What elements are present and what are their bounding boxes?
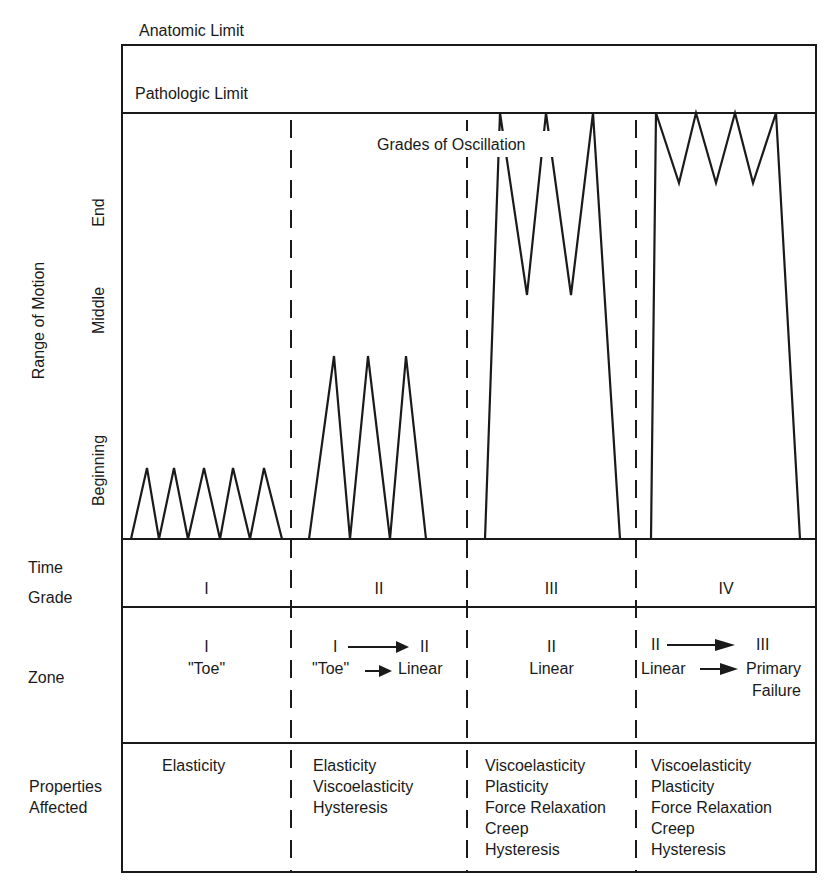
property-item: Plasticity	[651, 776, 772, 797]
row-label-zone: Zone	[28, 667, 64, 688]
row-label-time: Time	[28, 557, 63, 578]
grade-2-waveform	[309, 356, 426, 539]
property-item: Hysteresis	[651, 839, 772, 860]
property-item: Elasticity	[313, 755, 413, 776]
row-label-affected: Affected	[29, 797, 87, 818]
property-item: Creep	[651, 818, 772, 839]
y-level-end: End	[88, 183, 109, 243]
zone-iv-to-label: Primary	[746, 658, 801, 679]
pathologic-limit-label: Pathologic Limit	[135, 83, 248, 104]
grade-1-waveform	[131, 468, 282, 539]
row-label-properties: Properties	[29, 776, 102, 797]
properties-grade-ii: Elasticity Viscoelasticity Hysteresis	[313, 755, 413, 818]
row-label-grade: Grade	[28, 587, 72, 608]
y-level-middle: Middle	[88, 271, 109, 351]
y-axis-title: Range of Motion	[28, 261, 49, 381]
y-level-beginning: Beginning	[88, 421, 109, 521]
properties-grade-iii: Viscoelasticity Plasticity Force Relaxat…	[485, 755, 606, 860]
grade-ii-label: II	[291, 578, 467, 599]
zone-iii-label: Linear	[467, 658, 636, 679]
property-item: Elasticity	[162, 755, 225, 776]
grade-3-waveform	[485, 113, 620, 539]
property-item: Viscoelasticity	[485, 755, 606, 776]
property-item: Hysteresis	[313, 797, 413, 818]
property-item: Force Relaxation	[651, 797, 772, 818]
chart-title: Grades of Oscillation	[377, 134, 526, 155]
anatomic-limit-label: Anatomic Limit	[139, 20, 244, 41]
arrow-head-icon	[379, 665, 392, 677]
grade-4-waveform	[651, 113, 800, 539]
properties-grade-i: Elasticity	[162, 755, 225, 776]
grade-iv-label: IV	[636, 578, 816, 599]
grade-i-label: I	[122, 578, 291, 599]
properties-grade-iv: Viscoelasticity Plasticity Force Relaxat…	[651, 755, 772, 860]
zone-iv-from-label: Linear	[641, 658, 685, 679]
zone-iv-from-number: II	[651, 634, 660, 655]
zone-iv-to-label-2: Failure	[752, 680, 801, 701]
oscillation-diagram-lines	[0, 0, 828, 886]
zone-ii-from-number: I	[333, 636, 337, 657]
arrow-head-icon	[720, 663, 738, 675]
zone-i-number: I	[122, 636, 291, 657]
zone-ii-to-number: II	[420, 636, 429, 657]
zone-ii-to-label: Linear	[398, 658, 442, 679]
property-item: Force Relaxation	[485, 797, 606, 818]
grade-iii-label: III	[467, 578, 636, 599]
zone-iii-number: II	[467, 636, 636, 657]
zone-ii-from-label: "Toe"	[312, 658, 349, 679]
property-item: Creep	[485, 818, 606, 839]
property-item: Plasticity	[485, 776, 606, 797]
property-item: Hysteresis	[485, 839, 606, 860]
arrow-head-icon	[715, 639, 735, 651]
arrow-head-icon	[396, 641, 409, 653]
zone-iv-to-number: III	[756, 634, 769, 655]
zone-i-label: "Toe"	[122, 658, 291, 679]
property-item: Viscoelasticity	[651, 755, 772, 776]
property-item: Viscoelasticity	[313, 776, 413, 797]
